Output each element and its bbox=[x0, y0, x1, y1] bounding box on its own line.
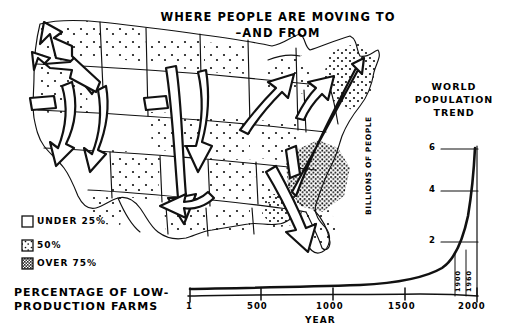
chart-annotation-1960: 1960 bbox=[465, 270, 473, 292]
legend-swatches bbox=[22, 216, 33, 269]
chart-y-tick-4: 4 bbox=[429, 184, 436, 194]
chart-title-line-2: POPULATION bbox=[398, 93, 510, 106]
legend-item-50: 50% bbox=[37, 240, 62, 250]
chart-x-tick-1500: 1500 bbox=[388, 301, 416, 311]
chart-x-axis-label: YEAR bbox=[305, 315, 336, 325]
chart-title-line-3: TREND bbox=[398, 106, 510, 119]
chart-title-line-1: WORLD bbox=[398, 80, 510, 93]
chart-y-tick-6: 6 bbox=[429, 142, 436, 152]
chart-y-axis-label: BILLIONS OF PEOPLE bbox=[364, 116, 373, 215]
chart-x-tick-1000: 1000 bbox=[316, 301, 344, 311]
map-caption-line2: PRODUCTION FARMS bbox=[14, 300, 158, 313]
figure-artwork bbox=[0, 0, 517, 333]
map-caption-line1: PERCENTAGE OF LOW- bbox=[14, 286, 169, 299]
figure-title-line2: –AND FROM bbox=[148, 26, 408, 40]
chart-title: WORLD POPULATION TREND bbox=[398, 80, 510, 119]
figure-title-line1: WHERE PEOPLE ARE MOVING TO bbox=[148, 10, 408, 24]
chart-y-tick-2: 2 bbox=[429, 235, 436, 245]
chart-annotation-1900: 1900 bbox=[454, 270, 462, 292]
chart-x-tick-1: 1 bbox=[186, 301, 193, 311]
legend-item-over-75: OVER 75% bbox=[37, 258, 97, 268]
figure-root: WHERE PEOPLE ARE MOVING TO –AND FROM WOR… bbox=[0, 0, 517, 333]
chart-x-tick-2000: 2000 bbox=[458, 301, 486, 311]
legend-item-under-25: UNDER 25% bbox=[37, 216, 106, 226]
chart-x-tick-500: 500 bbox=[247, 301, 268, 311]
